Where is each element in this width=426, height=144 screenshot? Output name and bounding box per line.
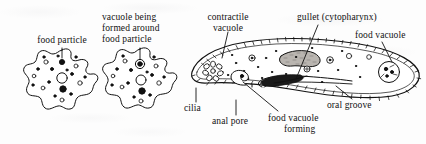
label-cilia: cilia [184, 103, 201, 114]
label-vacuole-being: vacuole being [102, 12, 156, 23]
label-food-particle: food particle [10, 35, 114, 46]
amoeba-stage-one-drawing [24, 49, 98, 109]
label-food-vacuole: food vacuole [355, 30, 406, 41]
label-food-vacuole-forming: food vacuole [268, 113, 319, 124]
label-gullet: gullet (cytopharynx) [297, 12, 377, 23]
food-vacuole-mature [379, 62, 400, 83]
label-forming: forming [284, 124, 315, 135]
label-formed-around: formed around [102, 23, 160, 34]
label-contractile: contractile [190, 12, 266, 23]
label-oral-groove: oral groove [327, 100, 372, 111]
label-anal-pore: anal pore [212, 116, 248, 127]
label-food-particle-two: food particle [102, 34, 152, 45]
paramecium-drawing [191, 37, 420, 100]
label-contractile-vacuole: vacuole [190, 23, 266, 34]
protozoa-feeding-figure: food particle vacuole being formed aroun… [0, 0, 426, 144]
